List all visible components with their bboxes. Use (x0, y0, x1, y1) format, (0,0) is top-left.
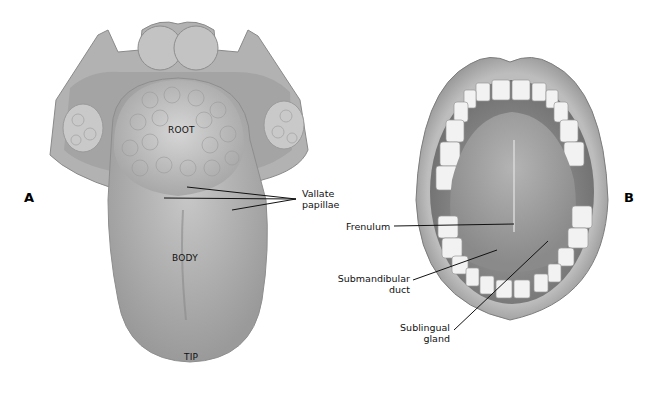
label-root: ROOT (168, 125, 195, 136)
label-submandibular-line2: duct (334, 284, 410, 295)
label-vallate-papillae: Vallate papillae (302, 188, 339, 210)
label-submandibular-line1: Submandibular (334, 273, 410, 284)
label-vallate-line2: papillae (302, 199, 339, 210)
label-sublingual-line1: Sublingual (376, 322, 450, 333)
label-vallate-line1: Vallate (302, 188, 339, 199)
tongue-dorsal-view (50, 22, 308, 362)
panel-label-b: B (624, 190, 634, 205)
label-tip: TIP (184, 352, 198, 363)
label-submandibular-duct: Submandibular duct (334, 273, 410, 295)
panel-label-a: A (24, 190, 34, 205)
label-sublingual-line2: gland (376, 333, 450, 344)
label-frenulum: Frenulum (346, 221, 390, 232)
label-sublingual-gland: Sublingual gland (376, 322, 450, 344)
label-body: BODY (172, 253, 198, 264)
open-mouth-view (394, 57, 608, 330)
tongue-root-region (114, 80, 244, 196)
